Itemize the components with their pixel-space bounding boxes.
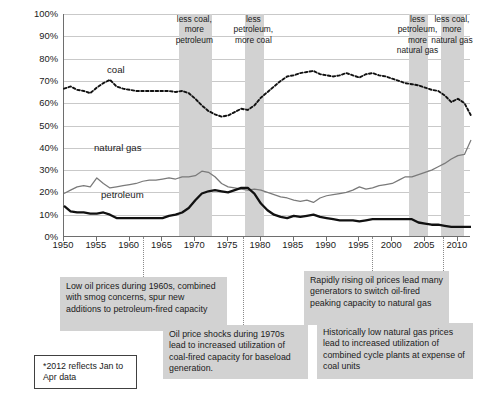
annotation-footnote: *2012 reflects Jan to Apr data (34, 355, 137, 389)
connector-line (243, 237, 244, 325)
connector-line (372, 237, 373, 271)
series-label-coal: coal (107, 64, 125, 75)
annotation-low-gas: Historically low natural gas prices lead… (317, 323, 473, 379)
annotation-1960s: Low oil prices during 1960s, combined wi… (60, 277, 227, 331)
annotation-rising-oil: Rapidly rising oil prices lead many gene… (304, 271, 449, 325)
band-caption-band-4: less coal, more natural gas (429, 14, 475, 45)
chart-page: 100%90%80%70%60%50%40%30%20%10%0% coalna… (0, 0, 485, 413)
band-caption-band-2: less petroleum, more coal (230, 14, 276, 45)
annotation-1970s: Oil price shocks during 1970s lead to in… (163, 325, 308, 379)
series-label-petroleum: petroleum (101, 189, 144, 200)
connector-line (143, 237, 144, 277)
series-label-natural-gas: natural gas (94, 142, 141, 153)
annotation-layer: Low oil prices during 1960s, combined wi… (0, 0, 485, 413)
band-caption-band-1: less coal, more petroleum (170, 14, 219, 45)
